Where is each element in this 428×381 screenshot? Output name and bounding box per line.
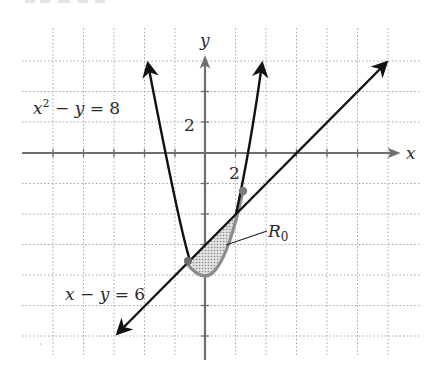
y-axis-label: y xyxy=(199,30,210,50)
x-tick-label-2: 2 xyxy=(229,163,240,183)
x-axis-label: x xyxy=(406,143,416,163)
figure-header-cutoff xyxy=(25,0,105,3)
y-tick-label-2: 2 xyxy=(184,115,195,135)
region-endpoint-dot xyxy=(239,187,247,195)
intersection-point-left xyxy=(184,257,192,265)
parabola-curve xyxy=(148,64,190,260)
line-equation-label: x − y = 6 xyxy=(65,284,145,304)
parabola-equation-label: x2 − y = 8 xyxy=(33,97,120,118)
graph-figure: y x 2 2 x2 − y = 8 x − y = 6 R0 xyxy=(0,0,428,381)
region-r0-label: R0 xyxy=(267,221,288,244)
grid xyxy=(22,28,420,355)
scan-speck xyxy=(40,343,42,345)
line-x-minus-y-6 xyxy=(118,63,386,333)
